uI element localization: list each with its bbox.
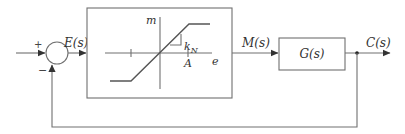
e-axis-label: e [212,55,219,68]
plus-sign: + [34,39,42,50]
nonlinear-block [87,8,232,98]
plant-label: G(s) [299,47,324,61]
minus-sign: − [38,64,47,77]
output-signal-label: C(s) [366,36,391,50]
block-diagram: + − E(s) m e kN A M(s) [0,0,405,134]
m-axis-label: m [146,14,156,27]
error-signal-label: E(s) [63,36,89,50]
saturation-point-label: A [183,57,192,70]
slope-label-sub: N [190,46,199,55]
manipulated-signal-label: M(s) [241,36,270,50]
